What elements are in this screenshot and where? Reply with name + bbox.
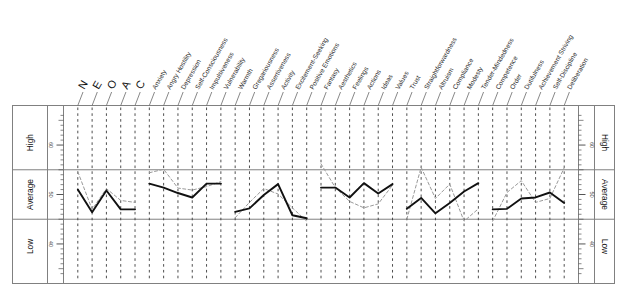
- leader-33: [550, 92, 555, 106]
- leader-3: [121, 92, 126, 106]
- leader-5: [149, 92, 154, 106]
- leader-25: [435, 92, 440, 106]
- leader-1: [92, 92, 97, 106]
- leader-9: [207, 92, 212, 106]
- domain-label-e: E: [90, 79, 104, 91]
- leader-8: [192, 92, 197, 106]
- domain-label-o: O: [104, 77, 119, 91]
- leader-2: [106, 92, 111, 106]
- leader-6: [164, 92, 169, 106]
- leader-34: [564, 92, 569, 106]
- band-label-left-average: Average: [25, 179, 35, 210]
- domain-label-n: N: [76, 78, 90, 91]
- leader-7: [178, 92, 183, 106]
- leader-31: [521, 92, 526, 106]
- facet-label-ideas: Ideas: [380, 72, 394, 90]
- y-axis-label-left-50: 50: [48, 191, 54, 197]
- leader-29: [493, 92, 498, 106]
- band-label-right-average: Average: [600, 179, 610, 210]
- neo-profile-chart: 405060405060HighHighAverageAverageLowLow…: [0, 0, 627, 298]
- leader-21: [378, 92, 383, 106]
- profile-plot: 405060405060HighHighAverageAverageLowLow…: [0, 0, 627, 298]
- facet-label-trust: Trust: [408, 74, 422, 90]
- leader-18: [335, 92, 340, 106]
- leader-13: [264, 92, 269, 106]
- band-label-right-high: High: [600, 134, 610, 152]
- y-axis-label-right-60: 60: [589, 142, 595, 148]
- leader-19: [350, 92, 355, 106]
- leader-24: [421, 92, 426, 106]
- y-axis-label-right-40: 40: [589, 241, 595, 247]
- leader-23: [407, 92, 412, 106]
- leader-20: [364, 92, 369, 106]
- domain-label-a: A: [119, 78, 133, 91]
- leader-30: [507, 92, 512, 106]
- band-label-right-low: Low: [600, 239, 610, 255]
- leader-0: [78, 92, 83, 106]
- leader-16: [307, 92, 312, 106]
- band-label-left-high: High: [25, 134, 35, 152]
- leader-14: [278, 92, 283, 106]
- leader-15: [292, 92, 297, 106]
- y-axis-label-left-60: 60: [48, 142, 54, 148]
- y-axis-label-right-50: 50: [589, 191, 595, 197]
- leader-32: [536, 92, 541, 106]
- leader-17: [321, 92, 326, 106]
- leader-10: [221, 92, 226, 106]
- leader-4: [135, 92, 140, 106]
- leader-12: [249, 92, 254, 106]
- leader-28: [478, 92, 483, 106]
- band-label-left-low: Low: [25, 238, 35, 254]
- domain-label-c: C: [133, 78, 147, 91]
- y-axis-label-left-40: 40: [48, 241, 54, 247]
- facet-label-order: Order: [508, 72, 523, 91]
- leader-22: [393, 92, 398, 106]
- leader-11: [235, 92, 240, 106]
- leader-27: [464, 92, 469, 106]
- leader-26: [450, 92, 455, 106]
